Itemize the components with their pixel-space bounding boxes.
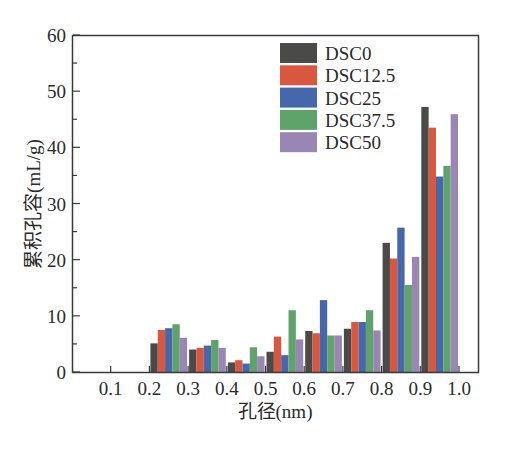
- bar-dsc0-0.8-0.9: [383, 243, 390, 372]
- bar-dsc37_5-0.3-0.4: [211, 340, 218, 372]
- legend-label: DSC12.5: [325, 65, 395, 86]
- bar-dsc50-0.5-0.6: [296, 339, 303, 372]
- legend-label: DSC37.5: [325, 110, 395, 131]
- bar-dsc0-0.6-0.7: [305, 331, 312, 372]
- bar-dsc37_5-0.4-0.5: [250, 347, 257, 372]
- bar-dsc0-0.3-0.4: [189, 350, 196, 372]
- bar-dsc0-0.9-1.0: [421, 107, 428, 372]
- bar-dsc37_5-0.2-0.3: [172, 324, 179, 372]
- x-tick-label: 0.6: [292, 378, 316, 399]
- y-tick-label: 10: [47, 306, 66, 327]
- bar-dsc25-0.9-1.0: [436, 177, 443, 372]
- bar-dsc12_5-0.5-0.6: [274, 337, 281, 372]
- legend-label: DSC50: [325, 132, 381, 153]
- x-tick-label: 0.7: [331, 378, 355, 399]
- bar-dsc50-0.3-0.4: [218, 348, 225, 372]
- bar-dsc25-0.8-0.9: [397, 228, 404, 372]
- y-axis: 0102030405060: [47, 25, 80, 383]
- legend-swatch: [280, 132, 317, 152]
- bar-dsc50-0.2-0.3: [180, 338, 187, 372]
- legend-swatch: [280, 65, 317, 85]
- bar-dsc25-0.5-0.6: [281, 355, 288, 372]
- x-tick-label: 0.8: [370, 378, 394, 399]
- y-tick-label: 40: [47, 137, 66, 158]
- bar-dsc0-0.4-0.5: [228, 362, 235, 372]
- y-tick-label: 20: [47, 250, 66, 271]
- bar-dsc0-0.2-0.3: [150, 343, 157, 372]
- x-tick-label: 1.0: [447, 378, 471, 399]
- bar-chart: 0102030405060 0.10.20.30.40.50.60.70.80.…: [0, 0, 507, 449]
- legend: DSC0DSC12.5DSC25DSC37.5DSC50: [280, 43, 395, 153]
- y-axis-title: 累积孔容(mL/g): [23, 139, 45, 269]
- legend-swatch: [280, 43, 317, 63]
- bar-dsc50-0.8-0.9: [412, 257, 419, 372]
- bar-dsc25-0.3-0.4: [204, 346, 211, 372]
- x-tick-label: 0.2: [138, 378, 162, 399]
- bar-dsc37_5-0.9-1.0: [443, 166, 450, 372]
- bar-dsc12_5-0.9-1.0: [429, 128, 436, 372]
- legend-swatch: [280, 88, 317, 108]
- bar-dsc12_5-0.6-0.7: [313, 333, 320, 372]
- bar-dsc25-0.6-0.7: [320, 300, 327, 372]
- bar-dsc25-0.7-0.8: [359, 322, 366, 372]
- x-tick-label: 0.3: [176, 378, 200, 399]
- y-tick-label: 60: [47, 25, 66, 46]
- bar-dsc25-0.2-0.3: [165, 328, 172, 372]
- bar-dsc37_5-0.8-0.9: [405, 285, 412, 372]
- bar-dsc37_5-0.5-0.6: [289, 310, 296, 372]
- bar-dsc0-0.5-0.6: [267, 352, 274, 372]
- legend-label: DSC25: [325, 88, 381, 109]
- bar-dsc12_5-0.3-0.4: [196, 348, 203, 372]
- bar-dsc12_5-0.2-0.3: [158, 330, 165, 372]
- y-tick-label: 50: [47, 81, 66, 102]
- bar-dsc25-0.4-0.5: [242, 364, 249, 372]
- y-tick-label: 30: [47, 194, 66, 215]
- y-tick-label: 0: [57, 362, 67, 383]
- x-tick-label: 0.5: [254, 378, 278, 399]
- bar-dsc37_5-0.7-0.8: [366, 310, 373, 372]
- bar-dsc0-0.7-0.8: [344, 329, 351, 372]
- bar-dsc12_5-0.7-0.8: [351, 322, 358, 372]
- bar-dsc50-0.4-0.5: [257, 356, 264, 372]
- bar-dsc12_5-0.8-0.9: [390, 259, 397, 372]
- bar-dsc50-0.6-0.7: [335, 335, 342, 372]
- legend-swatch: [280, 110, 317, 130]
- x-axis-title: 孔径(nm): [238, 401, 313, 423]
- x-tick-label: 0.4: [215, 378, 239, 399]
- x-tick-label: 0.1: [99, 378, 123, 399]
- bar-dsc50-0.9-1.0: [451, 114, 458, 372]
- bar-dsc37_5-0.6-0.7: [327, 335, 334, 372]
- bar-dsc50-0.7-0.8: [373, 330, 380, 372]
- legend-label: DSC0: [325, 43, 371, 64]
- bar-dsc12_5-0.4-0.5: [235, 360, 242, 372]
- x-tick-label: 0.9: [408, 378, 432, 399]
